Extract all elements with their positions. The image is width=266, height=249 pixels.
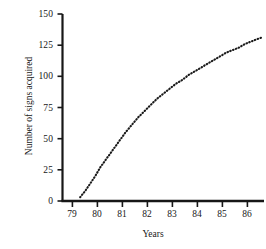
y-tick-label-100: 100 <box>31 71 53 81</box>
x-tick-label-86: 86 <box>237 209 257 219</box>
y-tick-label-0: 0 <box>31 196 53 206</box>
x-tick-label-82: 82 <box>137 209 157 219</box>
x-tick-label-85: 85 <box>212 209 232 219</box>
data-series-line <box>80 38 261 198</box>
y-tick-label-25: 25 <box>31 165 53 175</box>
x-tick-label-80: 80 <box>87 209 107 219</box>
axis-lines <box>61 14 264 201</box>
x-tick-label-81: 81 <box>112 209 132 219</box>
y-tick-label-75: 75 <box>31 103 53 113</box>
y-tick-label-50: 50 <box>31 134 53 144</box>
y-axis-title: Number of signs acquired <box>24 26 34 186</box>
x-tick-label-83: 83 <box>162 209 182 219</box>
x-axis-title: Years <box>113 229 193 239</box>
chart-figure: 150 125 100 75 50 25 0 79 80 81 82 83 84… <box>0 0 266 249</box>
y-tick-label-125: 125 <box>31 40 53 50</box>
x-tick-label-84: 84 <box>187 209 207 219</box>
x-tick-label-79: 79 <box>62 209 82 219</box>
y-tick-label-150: 150 <box>31 9 53 19</box>
